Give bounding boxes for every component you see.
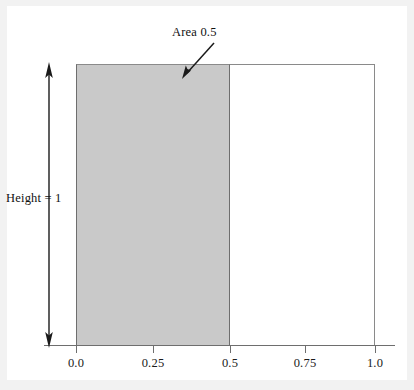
x-tick-label-4: 1.0 [345, 356, 405, 371]
x-tick-4 [375, 345, 376, 353]
x-tick-2 [230, 345, 231, 353]
shaded-area-region [76, 64, 230, 345]
x-tick-1 [153, 345, 154, 353]
x-tick-label-1: 0.25 [123, 356, 183, 371]
area-label: Area 0.5 [172, 25, 217, 40]
x-tick-label-2: 0.5 [200, 356, 260, 371]
x-axis-line [44, 345, 395, 346]
x-tick-label-3: 0.75 [275, 356, 335, 371]
x-tick-3 [305, 345, 306, 353]
figure-screenshot: 0.0 0.25 0.5 0.75 1.0 Height = 1 Area 0.… [0, 0, 414, 390]
x-tick-0 [76, 345, 77, 353]
arrow-down-left-icon [174, 40, 222, 82]
density-plot: 0.0 0.25 0.5 0.75 1.0 Height = 1 Area 0.… [0, 0, 414, 390]
x-tick-label-0: 0.0 [46, 356, 106, 371]
height-label: Height = 1 [6, 191, 62, 206]
